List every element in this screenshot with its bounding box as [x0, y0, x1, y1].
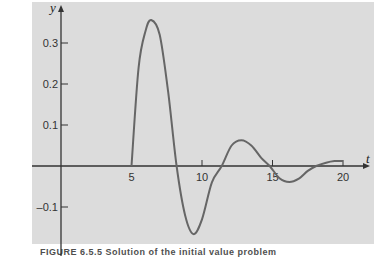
x-axis-label: t: [366, 151, 370, 166]
y-axis-arrow-icon: [58, 5, 64, 12]
axes: ty: [32, 0, 370, 256]
x-tick-label: 15: [266, 171, 278, 183]
y-tick-label: –0.1: [37, 201, 58, 213]
y-tick-label: 0.3: [43, 37, 58, 49]
figure-caption: FIGURE 6.5.5 Solution of the initial val…: [40, 247, 277, 257]
x-tick-label: 20: [337, 171, 349, 183]
x-tick-label: 5: [128, 171, 134, 183]
y-tick-label: 0.2: [43, 78, 58, 90]
y-tick-label: 0.1: [43, 119, 58, 131]
y-axis-label: y: [48, 0, 56, 15]
series-line: [132, 20, 344, 234]
ticks: 51015200.30.20.1–0.1: [37, 37, 350, 213]
curve-layer: [132, 20, 344, 234]
x-tick-label: 10: [196, 171, 208, 183]
